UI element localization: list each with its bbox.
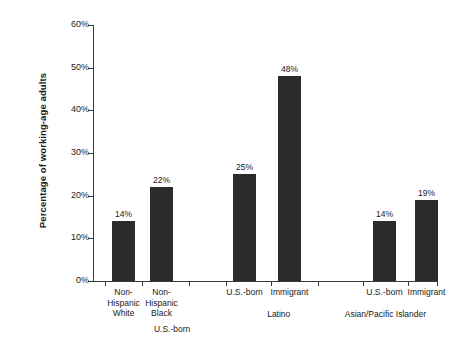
- y-axis-title: Percentage of working-age adults: [37, 41, 48, 261]
- bar-value-label: 25%: [236, 162, 253, 172]
- category-label: Non- Hispanic Black: [132, 287, 192, 319]
- bar: 48%: [278, 76, 301, 281]
- x-tick-mark: [318, 281, 319, 286]
- y-tick-label: 10%: [71, 232, 89, 242]
- bar-value-label: 48%: [281, 64, 298, 74]
- category-label: Immigrant: [397, 287, 457, 298]
- y-tick-label: 50%: [71, 62, 89, 72]
- plot-area: 60%50%40%30%20%10%0% 14%22%25%48%14%19% …: [93, 25, 437, 281]
- y-tick-label: 40%: [71, 104, 89, 114]
- x-tick-mark: [226, 281, 227, 286]
- bar-chart: Percentage of working-age adults 60%50%4…: [0, 0, 470, 350]
- bar: 19%: [415, 200, 438, 281]
- bar-group: 22%: [150, 25, 173, 281]
- bar: 22%: [150, 187, 173, 281]
- group-label: Asian/Pacific Islander: [327, 309, 444, 319]
- bar: 25%: [233, 174, 256, 281]
- bar: 14%: [112, 221, 135, 281]
- bar-value-label: 22%: [153, 175, 170, 185]
- y-tick-label: 60%: [71, 19, 89, 29]
- x-axis-line: [93, 281, 437, 282]
- bar-group: 19%: [415, 25, 438, 281]
- y-tick-label: 30%: [71, 147, 89, 157]
- bar-group: 14%: [373, 25, 396, 281]
- group-label: U.S.-born: [103, 324, 241, 334]
- bar: 14%: [373, 221, 396, 281]
- bar-value-label: 14%: [376, 209, 393, 219]
- bar-group: 48%: [278, 25, 301, 281]
- y-tick-label: 20%: [71, 190, 89, 200]
- category-label: Immigrant: [260, 287, 320, 298]
- bar-value-label: 14%: [115, 209, 132, 219]
- x-tick-mark: [105, 281, 106, 286]
- x-tick-mark: [363, 281, 364, 286]
- x-tick-mark: [408, 281, 409, 286]
- bar-group: 25%: [233, 25, 256, 281]
- group-label: Latino: [227, 309, 330, 319]
- bar-group: 14%: [112, 25, 135, 281]
- y-tick-label: 0%: [76, 275, 89, 285]
- x-tick-mark: [271, 281, 272, 286]
- x-tick-mark: [437, 281, 438, 286]
- x-tick-mark: [189, 281, 190, 286]
- y-axis-line: [93, 25, 94, 282]
- x-tick-mark: [142, 281, 143, 286]
- bar-value-label: 19%: [418, 188, 435, 198]
